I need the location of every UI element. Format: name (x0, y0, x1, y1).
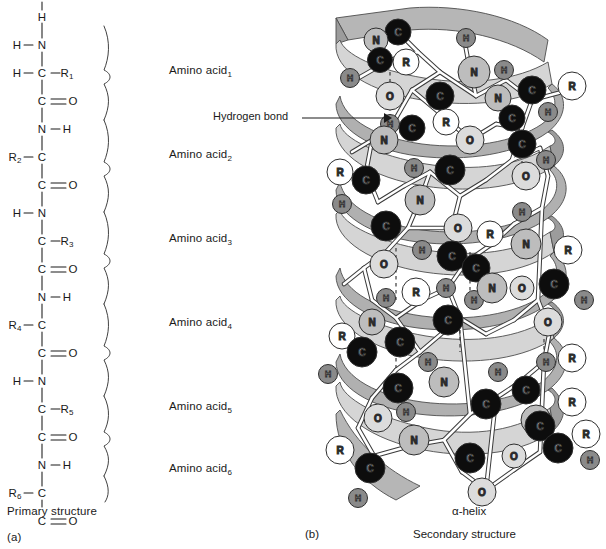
svg-text:C: C (528, 85, 535, 96)
atom-C: C (385, 327, 415, 357)
svg-text:H: H (471, 295, 477, 305)
atom-H: H (333, 195, 352, 214)
svg-text:C: C (394, 27, 401, 38)
atom-H: H (377, 289, 396, 308)
svg-text:O: O (544, 317, 552, 328)
atom-H: H (397, 403, 416, 422)
atom-C: C (539, 269, 569, 299)
atom-N: N (399, 425, 429, 455)
svg-text:H: H (325, 369, 331, 379)
amino-acid-label-1: Amino acid1 (169, 64, 232, 79)
amino-acid-label-4: Amino acid4 (169, 316, 232, 331)
hydrogen-bond-annotation: Hydrogen bond (213, 110, 288, 122)
atom-R: R (327, 159, 353, 185)
amino-acid-label-3: Amino acid3 (169, 232, 232, 247)
svg-text:C: C (382, 221, 389, 232)
atom-C: C (518, 76, 546, 104)
svg-text:R: R (442, 117, 450, 128)
svg-text:C: C (408, 123, 415, 134)
figure-protein-structure: H N H C H R1 C O N H C R2 C O N H C R3 C… (0, 0, 606, 549)
atom-O: O (444, 214, 472, 242)
amino-acid-label-5: Amino acid5 (169, 400, 232, 415)
svg-text:O: O (466, 135, 474, 146)
atom-C: C (347, 337, 377, 367)
atom-O: O (510, 276, 534, 300)
svg-text:N: N (470, 67, 477, 78)
atom-H: H (539, 103, 558, 122)
svg-text:H: H (463, 33, 469, 43)
svg-text:C: C (536, 421, 543, 432)
svg-text:O: O (522, 171, 530, 182)
atom-O: O (370, 250, 398, 278)
atom-O: O (376, 82, 404, 110)
svg-text:H: H (347, 73, 353, 83)
atom-H: H (319, 365, 338, 384)
atom-H: H (489, 363, 508, 382)
alpha-helix-diagram: C N C R H O H C H N H N C R H C O R C (300, 0, 606, 549)
svg-text:C: C (518, 139, 525, 150)
svg-text:C: C (358, 347, 365, 358)
atom-N: N (405, 185, 435, 215)
atom-C: C (435, 155, 465, 185)
svg-text:H: H (339, 199, 345, 209)
svg-text:H: H (403, 407, 409, 417)
atom-N: N (359, 309, 385, 335)
atom-C: C (355, 453, 385, 483)
amino-acid-label-2: Amino acid2 (169, 148, 232, 163)
svg-text:R: R (564, 245, 572, 256)
atom-C: C (368, 48, 393, 73)
svg-text:N: N (368, 317, 375, 328)
atom-H: H (349, 489, 368, 508)
svg-text:R: R (338, 331, 346, 342)
amino-acid-label-6: Amino acid6 (169, 462, 232, 477)
svg-text:O: O (478, 487, 486, 498)
atom-R: R (572, 420, 600, 448)
panel-b-letter: (b) (305, 528, 319, 540)
svg-text:R: R (402, 57, 410, 68)
svg-text:H: H (581, 295, 587, 305)
svg-text:R: R (568, 397, 576, 408)
atom-H: H (341, 69, 360, 88)
atom-O: O (502, 444, 526, 468)
svg-text:N: N (416, 195, 423, 206)
atom-R: R (477, 221, 503, 247)
atom-H: H (581, 451, 600, 470)
residue-braces (0, 0, 300, 549)
atom-C: C (508, 130, 536, 158)
atom-O: O (468, 478, 496, 506)
atom-R: R (326, 436, 354, 464)
svg-text:C: C (444, 315, 451, 326)
svg-text:C: C (376, 55, 383, 66)
atom-H: H (537, 353, 556, 372)
svg-text:C: C (394, 383, 401, 394)
atom-C: C (371, 211, 401, 241)
svg-text:N: N (440, 377, 447, 388)
atom-O: O (512, 162, 540, 190)
svg-text:H: H (419, 245, 425, 255)
svg-text:O: O (454, 223, 462, 234)
atom-H: H (513, 203, 532, 222)
svg-text:O: O (518, 283, 526, 294)
svg-text:N: N (410, 435, 417, 446)
atom-O: O (456, 126, 484, 154)
atom-H: H (405, 159, 424, 178)
svg-text:R: R (568, 353, 576, 364)
svg-text:N: N (372, 35, 379, 46)
atom-R: R (393, 49, 419, 75)
atom-R: R (433, 109, 459, 135)
svg-text:C: C (522, 385, 529, 396)
svg-text:R: R (582, 429, 590, 440)
svg-text:H: H (545, 107, 551, 117)
atom-N: N (429, 367, 459, 397)
svg-text:O: O (386, 91, 394, 102)
svg-text:C: C (448, 251, 455, 262)
atom-C: C (499, 105, 525, 131)
atom-H: H (437, 279, 456, 298)
svg-text:H: H (443, 283, 449, 293)
panel-a-primary-structure: H N H C H R1 C O N H C R2 C O N H C R3 C… (0, 0, 300, 549)
svg-text:H: H (543, 357, 549, 367)
svg-text:H: H (425, 357, 431, 367)
atom-O: O (364, 404, 392, 432)
atom-C: C (543, 433, 573, 463)
alpha-helix-caption: α-helix (452, 505, 486, 517)
